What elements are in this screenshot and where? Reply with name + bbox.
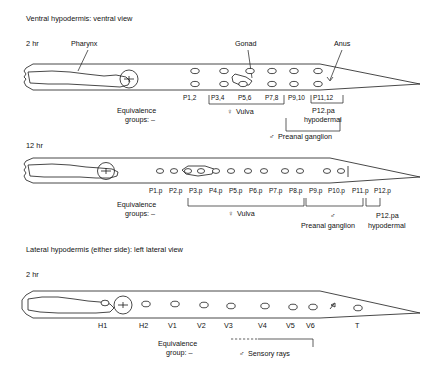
- symbol-male-preanal: ♂: [269, 132, 275, 141]
- section-title-lateral: Lateral hypodermis (either side): left l…: [26, 245, 184, 254]
- cell-V1: [171, 301, 179, 307]
- cell-label-V5: V5: [286, 321, 295, 330]
- callout-pharynx-leader: [78, 50, 88, 71]
- callout-anus-leader: [330, 50, 342, 80]
- equivalence-label-ventral-line1: Equivalence: [117, 106, 156, 115]
- group-label-preanal-ganglion: Preanal ganglion: [278, 132, 332, 141]
- cell-P7: [268, 68, 276, 73]
- cell-label-P7p: P7.p: [269, 187, 283, 195]
- cell-label-P12p: P12.p: [374, 187, 391, 195]
- worm-outline-lateral: [22, 291, 420, 318]
- bracket-sensory-rays-solid: [258, 339, 313, 347]
- cell-P2: [191, 81, 199, 86]
- cell-label-T: T: [355, 321, 360, 330]
- cell-P7p: [244, 169, 251, 174]
- cell-P8: [268, 81, 276, 86]
- cell-label-V3: V3: [224, 321, 233, 330]
- equivalence-label-lateral-line2: group: –: [166, 348, 192, 357]
- bracket-preanal-ganglion-12hr: [306, 198, 363, 206]
- cell-P1p: [156, 169, 163, 174]
- cell-label-P9p: P9.p: [309, 187, 323, 195]
- cell-V3: [227, 303, 235, 309]
- equivalence-label-ventral-line2: groups: –: [125, 115, 155, 124]
- lateral-cells: [101, 300, 362, 311]
- cell-H1: [101, 300, 109, 306]
- symbol-male-preanal-12hr: ♂: [330, 211, 336, 220]
- cell-P11: [314, 68, 322, 73]
- time-label-ventral-12hr: 12 hr: [26, 141, 43, 150]
- bracket-vulva-12hr: [188, 198, 304, 206]
- callout-gonad-label: Gonad: [235, 39, 257, 48]
- cell-P4p: [197, 169, 204, 174]
- cell-label-P3-4: P3,4: [211, 94, 225, 101]
- cell-P10p: [296, 169, 303, 174]
- cell-label-H1: H1: [98, 321, 107, 330]
- cell-P8p: [260, 169, 267, 174]
- panel-ventral-2hr: Ventral hypodermis: ventral view 2 hr Ph…: [24, 14, 420, 141]
- group-label-sensory-rays: Sensory rays: [248, 349, 290, 358]
- cell-label-P8p: P8.p: [289, 187, 303, 195]
- ventral-cells-2hr: [191, 68, 322, 86]
- time-label-ventral-2hr: 2 hr: [26, 39, 39, 48]
- cell-P11p: [323, 169, 330, 174]
- cell-label-P7-8: P7,8: [265, 94, 279, 101]
- cell-label-P9-10: P9,10: [288, 94, 305, 101]
- cell-P9p: [281, 169, 288, 174]
- cell-V2: [200, 302, 208, 308]
- group-label-p12pa-line1: P12.pa: [312, 106, 335, 115]
- cell-P12p: [337, 169, 344, 174]
- pharynx-organ-lateral: [28, 297, 114, 313]
- symbol-male-sensory-rays: ♂: [239, 349, 245, 358]
- cell-P6p: [227, 169, 234, 174]
- cell-label-P3p: P3.p: [189, 187, 203, 195]
- cell-label-P1p: P1.p: [149, 187, 163, 195]
- group-label-p12pa-12hr-line2: hypodermal: [368, 221, 406, 230]
- cell-V5: [289, 304, 297, 310]
- cell-P2p: [170, 169, 177, 174]
- cell-label-P11p: P11.p: [352, 187, 369, 195]
- cell-P10: [290, 81, 298, 86]
- cell-label-P10p: P10.p: [328, 187, 345, 195]
- cell-label-V1: V1: [168, 321, 177, 330]
- group-label-preanal-ganglion-12hr: Preanal ganglion: [301, 221, 355, 230]
- cell-P12: [314, 81, 322, 86]
- cell-P6: [239, 81, 247, 86]
- cell-T: [354, 305, 362, 311]
- callout-anus-arrowhead: [327, 77, 333, 81]
- cell-label-P5-6: P5,6: [238, 94, 252, 101]
- time-label-lateral-2hr: 2 hr: [26, 270, 39, 279]
- group-label-p12pa-12hr-line1: P12.pa: [376, 211, 399, 220]
- bracket-p12pa-12hr: [366, 198, 380, 206]
- symbol-female-vulva: ♀: [227, 107, 233, 116]
- group-label-vulva-12hr: Vulva: [237, 209, 255, 218]
- cell-label-P1-2: P1,2: [183, 94, 197, 101]
- group-label-vulva: Vulva: [236, 107, 254, 116]
- cell-P3: [220, 68, 228, 73]
- cell-label-V6: V6: [306, 321, 315, 330]
- cell-P9: [290, 68, 298, 73]
- celegans-hypodermis-figure: Ventral hypodermis: ventral view 2 hr Ph…: [0, 0, 427, 373]
- cell-V4: [261, 303, 269, 309]
- cell-label-P6p: P6.p: [249, 187, 263, 195]
- section-title-ventral: Ventral hypodermis: ventral view: [26, 14, 133, 23]
- cell-label-V2: V2: [197, 321, 206, 330]
- cell-label-P11-12: P11,12: [313, 94, 334, 101]
- callout-pharynx-label: Pharynx: [71, 39, 98, 48]
- group-label-p12pa-line2: hypodermal: [304, 115, 342, 124]
- callout-anus-label: Anus: [334, 39, 351, 48]
- cell-H2: [142, 301, 150, 307]
- cell-P5: [246, 68, 254, 73]
- equivalence-label-lateral-line1: Equivalence: [158, 339, 197, 348]
- pharynx-bulb-mark-lateral: [118, 302, 128, 308]
- cell-label-P4p: P4.p: [209, 187, 223, 195]
- cell-V6: [309, 304, 317, 310]
- cell-P1: [191, 68, 199, 73]
- cell-label-P5p: P5.p: [229, 187, 243, 195]
- panel-ventral-12hr: 12 hr P1.p P2.p P3.p P4.p: [24, 141, 420, 230]
- cell-P3p: [184, 169, 191, 174]
- cell-P4: [220, 81, 228, 86]
- symbol-female-vulva-12hr: ♀: [228, 209, 234, 218]
- cell-P5p: [212, 169, 219, 174]
- equivalence-label-12hr-line1: Equivalence: [117, 200, 156, 209]
- equivalence-label-12hr-line2: groups: –: [125, 209, 155, 218]
